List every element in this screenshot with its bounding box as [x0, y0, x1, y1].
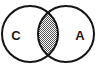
venn-diagram-canvas: C A	[0, 0, 98, 69]
venn-diagram-figure: C A	[0, 0, 98, 69]
set-label-a: A	[75, 28, 85, 43]
set-label-c: C	[11, 28, 21, 43]
